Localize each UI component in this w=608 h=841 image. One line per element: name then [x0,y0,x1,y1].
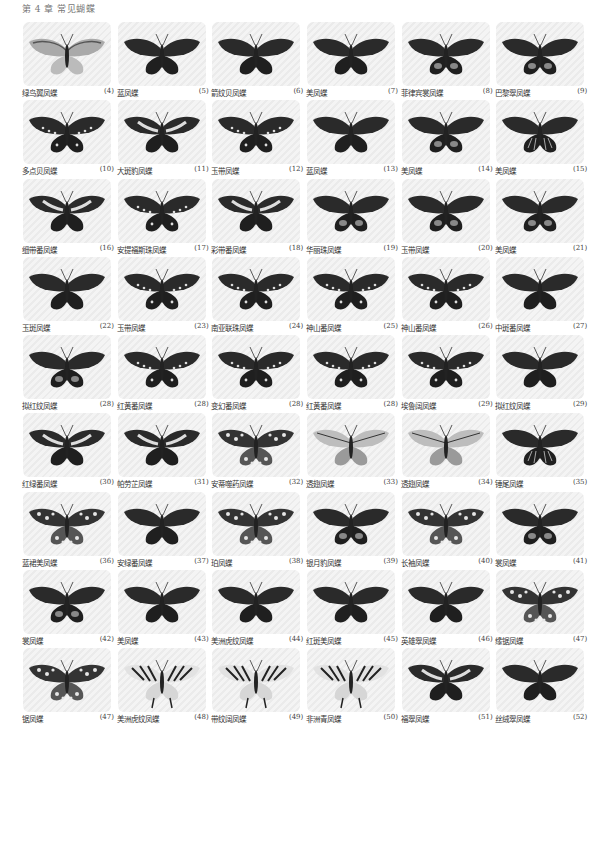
butterfly-figure: 红绿番凤蝶(30) [22,413,117,491]
butterfly-image [402,648,490,712]
figure-number: (31) [194,478,208,489]
butterfly-caption: 美凤蝶(43) [117,635,209,646]
figure-number: (34) [478,478,492,489]
butterfly-name: 珀凤蝶 [211,557,232,568]
butterfly-name: 锯凤蝶 [22,713,43,724]
butterfly-image [212,257,300,321]
butterfly-caption: 美凤蝶(21) [495,244,587,255]
butterfly-name: 神山番凤蝶 [401,322,436,333]
figure-number: (24) [289,322,303,333]
butterfly-name: 带纹阔凤蝶 [211,713,246,724]
figure-number: (39) [384,557,398,568]
figure-number: (28) [194,400,208,411]
butterfly-image [23,570,111,634]
butterfly-name: 锤尾凤蝶 [495,478,523,489]
butterfly-figure: 红黄番凤蝶(28) [117,335,212,413]
butterfly-name: 丝绒翠凤蝶 [495,713,530,724]
figure-number: (28) [384,400,398,411]
butterfly-caption: 长袖凤蝶(40) [401,557,493,568]
butterfly-caption: 透翅凤蝶(34) [401,478,493,489]
butterfly-figure: 绿鸟翼凤蝶(4) [22,22,117,100]
butterfly-name: 变幻番凤蝶 [211,400,246,411]
figure-number: (9) [577,87,587,98]
butterfly-figure: 银月豹凤蝶(39) [306,492,401,570]
figure-number: (23) [194,322,208,333]
butterfly-figure: 中斑番凤蝶(27) [495,257,590,335]
butterfly-caption: 银月豹凤蝶(39) [306,557,398,568]
butterfly-image [496,22,584,86]
figure-number: (8) [483,87,493,98]
butterfly-image [402,179,490,243]
butterfly-caption: 埃鲁阔凤蝶(29) [401,400,493,411]
butterfly-figure: 珀凤蝶(38) [211,492,306,570]
butterfly-image [402,100,490,164]
butterfly-caption: 玉带凤蝶(23) [117,322,209,333]
butterfly-figure: 玉带凤蝶(20) [401,179,496,257]
butterfly-name: 玉带凤蝶 [211,165,239,176]
butterfly-image [402,22,490,86]
figure-number: (41) [573,557,587,568]
butterfly-figure: 美洲虎纹凤蝶(48) [117,648,212,726]
butterfly-figure: 红黄番凤蝶(28) [306,335,401,413]
butterfly-caption: 美凤蝶(7) [306,87,398,98]
figure-number: (36) [100,557,114,568]
butterfly-name: 美凤蝶 [401,165,422,176]
butterfly-caption: 拟红纹凤蝶(28) [22,400,114,411]
butterfly-name: 多点贝凤蝶 [22,165,57,176]
butterfly-image [307,570,395,634]
figure-number: (17) [194,244,208,255]
butterfly-name: 蓝裙美凤蝶 [22,557,57,568]
figure-number: (4) [104,87,114,98]
butterfly-image [307,648,395,712]
butterfly-name: 蓝凤蝶 [306,165,327,176]
butterfly-image [23,257,111,321]
butterfly-figure: 透翅凤蝶(34) [401,413,496,491]
butterfly-name: 华丽珠凤蝶 [306,244,341,255]
butterfly-name: 美洲虎纹凤蝶 [211,635,253,646]
butterfly-name: 巴黎翠凤蝶 [495,87,530,98]
butterfly-caption: 锤尾凤蝶(35) [495,478,587,489]
butterfly-caption: 美洲虎纹凤蝶(44) [211,635,303,646]
butterfly-image [118,335,206,399]
butterfly-image [496,492,584,556]
butterfly-image [496,413,584,477]
butterfly-name: 裳凤蝶 [22,635,43,646]
butterfly-name: 透翅凤蝶 [401,478,429,489]
butterfly-caption: 玉带凤蝶(20) [401,244,493,255]
butterfly-caption: 安蒂噬药凤蝶(32) [211,478,303,489]
butterfly-image [118,179,206,243]
figure-number: (25) [384,322,398,333]
butterfly-caption: 玉带凤蝶(12) [211,165,303,176]
butterfly-caption: 玉斑凤蝶(22) [22,322,114,333]
butterfly-image [212,570,300,634]
butterfly-figure: 安绿番凤蝶(37) [117,492,212,570]
butterfly-caption: 蓝凤蝶(13) [306,165,398,176]
butterfly-figure: 丝绒翠凤蝶(52) [495,648,590,726]
butterfly-caption: 珀凤蝶(38) [211,557,303,568]
butterfly-name: 菲律宾裳凤蝶 [401,87,443,98]
figure-number: (35) [573,478,587,489]
butterfly-caption: 神山番凤蝶(26) [401,322,493,333]
butterfly-image [23,492,111,556]
butterfly-image [118,100,206,164]
butterfly-name: 银月豹凤蝶 [306,557,341,568]
butterfly-image [118,257,206,321]
butterfly-caption: 红黄番凤蝶(28) [306,400,398,411]
butterfly-name: 美凤蝶 [495,165,516,176]
butterfly-caption: 彩带番凤蝶(18) [211,244,303,255]
figure-number: (38) [289,557,303,568]
butterfly-image [23,648,111,712]
figure-number: (30) [100,478,114,489]
butterfly-image [118,413,206,477]
butterfly-name: 安蒂噬药凤蝶 [211,478,253,489]
butterfly-caption: 裳凤蝶(42) [22,635,114,646]
butterfly-figure: 红斑美凤蝶(45) [306,570,401,648]
butterfly-figure: 拟红纹凤蝶(29) [495,335,590,413]
figure-number: (42) [100,635,114,646]
figure-number: (22) [100,322,114,333]
butterfly-name: 美洲虎纹凤蝶 [117,713,159,724]
butterfly-figure: 美凤蝶(14) [401,100,496,178]
butterfly-caption: 非洲青凤蝶(50) [306,713,398,724]
butterfly-name: 埃鲁阔凤蝶 [401,400,436,411]
butterfly-image [496,648,584,712]
